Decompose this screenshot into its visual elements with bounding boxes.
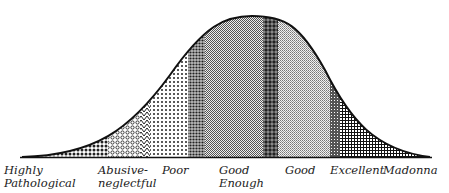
label-good: Good	[285, 164, 315, 177]
label-poor: Poor	[162, 164, 189, 177]
label-line: neglectful	[98, 177, 156, 190]
label-line: Enough	[219, 177, 264, 190]
label-abusive-neglectful: Abusive- neglectful	[98, 164, 156, 190]
label-highly-pathological: Highly Pathological	[4, 164, 76, 190]
label-madonna: Madonna	[383, 164, 438, 177]
label-excellent: Excellent	[330, 164, 384, 177]
label-line: Good	[285, 164, 315, 177]
label-line: Excellent	[330, 164, 384, 177]
label-good-enough: Good Enough	[219, 164, 264, 190]
label-line: Madonna	[383, 164, 438, 177]
label-line: Poor	[162, 164, 189, 177]
label-line: Pathological	[4, 177, 76, 190]
bell-curve-diagram	[0, 0, 449, 160]
